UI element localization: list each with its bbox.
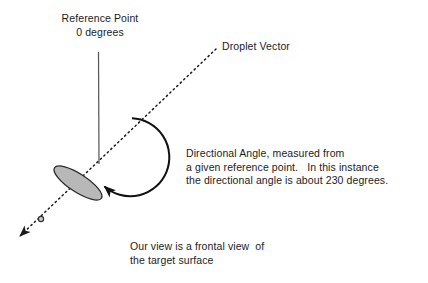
- label-reference-point: Reference Point 0 degrees: [56, 12, 144, 39]
- diagram-page: Reference Point 0 degrees Droplet Vector…: [0, 0, 428, 283]
- reference-line: [99, 52, 100, 164]
- label-frontal-view-note: Our view is a frontal view of the target…: [130, 240, 264, 267]
- vector-bead-marker: [38, 216, 43, 221]
- directional-angle-arc: [105, 118, 170, 196]
- label-directional-angle-description: Directional Angle, measured from a given…: [186, 147, 388, 188]
- droplet-vector-line: [20, 49, 216, 236]
- label-droplet-vector: Droplet Vector: [222, 40, 290, 54]
